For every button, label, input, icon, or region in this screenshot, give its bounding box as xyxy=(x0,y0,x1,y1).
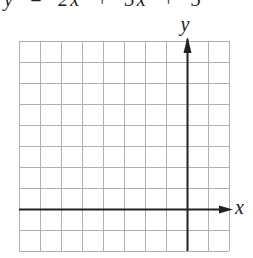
x-axis-label: x xyxy=(235,196,244,219)
x-axis-arrow-icon xyxy=(219,206,233,214)
coordinate-grid xyxy=(0,0,253,258)
y-axis-label: y xyxy=(181,13,190,36)
y-axis-arrow-icon xyxy=(184,37,192,53)
